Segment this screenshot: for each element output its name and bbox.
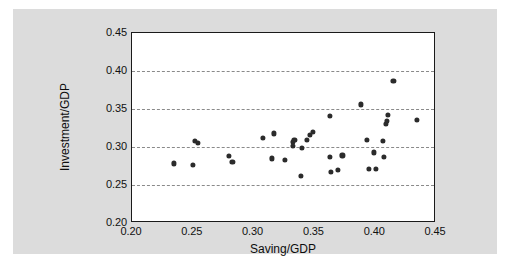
x-tick-label: 0.20: [120, 225, 141, 237]
gridline: [132, 109, 434, 110]
data-point: [226, 154, 231, 159]
data-point: [260, 135, 265, 140]
data-point: [366, 166, 371, 171]
plot-inner: [132, 33, 434, 221]
data-point: [414, 117, 419, 122]
data-point: [292, 137, 297, 142]
x-axis-label: Saving/GDP: [131, 242, 435, 256]
gridline: [132, 185, 434, 186]
y-tick-label: 0.40: [106, 64, 127, 76]
data-point: [300, 146, 305, 151]
data-point: [298, 173, 303, 178]
x-tick-label: 0.30: [242, 225, 263, 237]
data-point: [385, 112, 390, 117]
data-point: [358, 102, 363, 107]
x-tick-label: 0.25: [181, 225, 202, 237]
y-axis-label: Investment/GDP: [58, 57, 72, 197]
y-axis-ticks: 0.200.250.300.350.400.45: [91, 32, 127, 222]
data-point: [340, 153, 345, 158]
data-point: [365, 137, 370, 142]
data-point: [373, 166, 378, 171]
x-tick-label: 0.45: [424, 225, 445, 237]
plot-area: [131, 32, 435, 222]
data-point: [171, 161, 176, 166]
data-point: [269, 156, 274, 161]
data-point: [230, 159, 235, 164]
data-point: [304, 137, 309, 142]
data-point: [311, 130, 316, 135]
data-point: [190, 162, 195, 167]
chart-canvas: 0.200.250.300.350.400.45 0.200.250.300.3…: [13, 9, 497, 254]
figure-container: 0.200.250.300.350.400.45 0.200.250.300.3…: [0, 0, 510, 265]
data-point: [196, 141, 201, 146]
x-axis-ticks: 0.200.250.300.350.400.45: [131, 225, 435, 241]
data-point: [381, 155, 386, 160]
data-point: [328, 154, 333, 159]
y-tick-label: 0.35: [106, 102, 127, 114]
x-tick-label: 0.40: [364, 225, 385, 237]
data-point: [271, 131, 276, 136]
gridline: [132, 71, 434, 72]
gridline: [132, 147, 434, 148]
data-point: [328, 169, 333, 174]
data-point: [384, 119, 389, 124]
data-point: [381, 138, 386, 143]
data-point: [327, 113, 332, 118]
data-point: [391, 79, 396, 84]
y-tick-label: 0.25: [106, 178, 127, 190]
data-point: [371, 150, 376, 155]
y-tick-label: 0.30: [106, 140, 127, 152]
data-point: [283, 157, 288, 162]
data-point: [335, 167, 340, 172]
x-tick-label: 0.35: [303, 225, 324, 237]
y-tick-label: 0.45: [106, 26, 127, 38]
